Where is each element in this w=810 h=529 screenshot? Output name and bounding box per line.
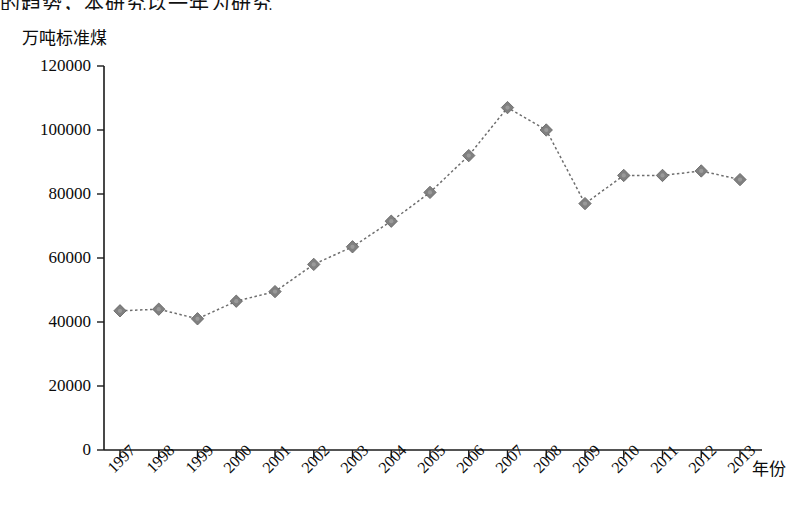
marker-center-icon [544, 128, 548, 132]
y-tick-label: 100000 [5, 120, 91, 140]
data-point-marker [540, 124, 552, 136]
y-tick-label: 20000 [5, 376, 91, 396]
data-point-marker [191, 313, 203, 325]
marker-center-icon [428, 190, 432, 194]
marker-center-icon [234, 299, 238, 303]
marker-center-icon [622, 173, 626, 177]
marker-center-icon [312, 262, 316, 266]
data-point-marker [114, 305, 126, 317]
marker-center-icon [583, 202, 587, 206]
data-point-marker [618, 169, 630, 181]
marker-center-icon [157, 307, 161, 311]
data-point-marker [269, 285, 281, 297]
marker-center-icon [699, 169, 703, 173]
marker-center-icon [118, 309, 122, 313]
data-line [120, 108, 740, 319]
marker-center-icon [195, 317, 199, 321]
data-point-marker [656, 169, 668, 181]
y-tick-label: 120000 [5, 56, 91, 76]
marker-center-icon [389, 219, 393, 223]
data-point-marker [501, 101, 513, 113]
data-point-marker [579, 197, 591, 209]
data-point-marker [734, 173, 746, 185]
y-tick-label: 40000 [5, 312, 91, 332]
marker-center-icon [505, 106, 509, 110]
data-point-marker [695, 165, 707, 177]
data-point-marker [230, 295, 242, 307]
data-point-marker [153, 303, 165, 315]
y-tick-label: 80000 [5, 184, 91, 204]
marker-center-icon [350, 245, 354, 249]
data-point-marker [308, 258, 320, 270]
y-tick-label: 60000 [5, 248, 91, 268]
marker-center-icon [467, 154, 471, 158]
marker-center-icon [738, 178, 742, 182]
data-point-marker [385, 215, 397, 227]
chart-container: 的趋势，本研究以一年为研究 万吨标准煤 年份 02000040000600008… [0, 0, 810, 529]
y-tick-label: 0 [5, 440, 91, 460]
data-point-marker [346, 241, 358, 253]
marker-center-icon [660, 173, 664, 177]
marker-center-icon [273, 290, 277, 294]
